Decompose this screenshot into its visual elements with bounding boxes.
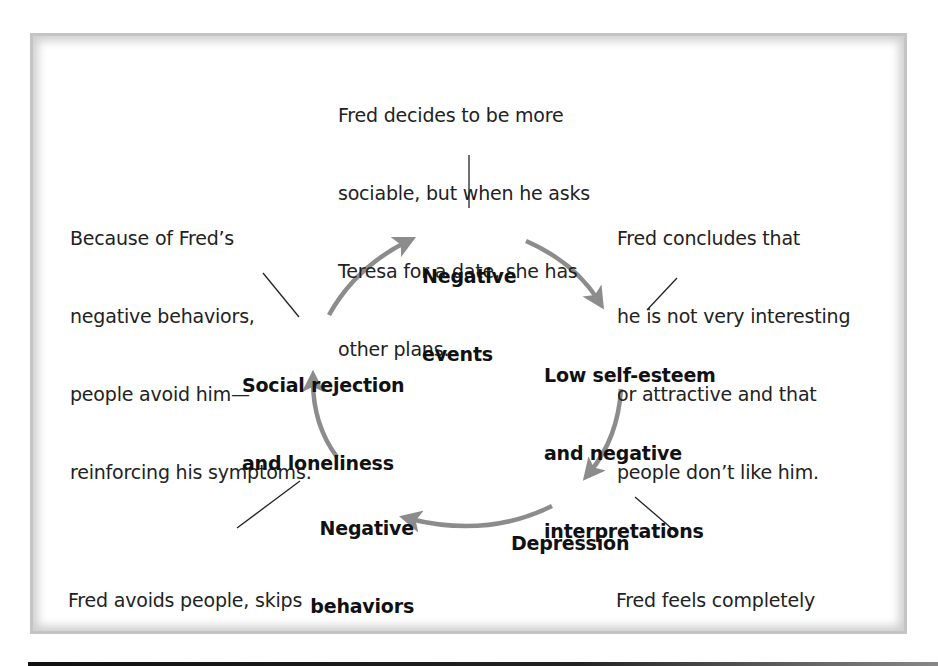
bottom-rule	[28, 662, 938, 666]
node-depression: Depression	[511, 478, 629, 582]
node-negative-events: Negative events	[422, 211, 516, 393]
node-social-rejection: Social rejection and loneliness	[242, 320, 404, 502]
note-negative-behaviors: Fred avoids people, skips school, and ne…	[68, 535, 302, 666]
